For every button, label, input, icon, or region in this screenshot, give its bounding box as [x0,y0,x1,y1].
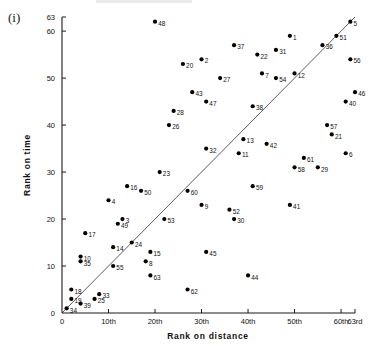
point-label: 11 [242,151,249,158]
point-label: 56 [354,57,362,64]
data-point: 1 [288,34,297,41]
point-marker [334,34,338,38]
data-point: 44 [246,273,259,280]
point-label: 29 [321,166,329,173]
data-point: 48 [153,20,166,27]
point-marker [69,287,73,291]
point-label: 27 [223,76,231,83]
y-tick-label: 0 [51,309,55,318]
data-point: 21 [330,132,343,139]
data-point: 15 [148,250,161,257]
data-point: 57 [325,123,338,130]
point-marker [167,123,171,127]
point-label: 50 [144,189,152,196]
point-marker [83,231,87,235]
point-label: 2 [205,57,209,64]
point-label: 44 [251,274,259,281]
point-marker [348,20,352,24]
y-tick-label: 60 [47,27,55,36]
data-point: 37 [232,43,245,50]
point-label: 45 [209,250,217,257]
data-point: 47 [204,99,217,106]
point-marker [125,184,129,188]
point-marker [232,217,236,221]
point-marker [144,259,148,263]
y-axis-title: Rank on time [22,134,32,196]
point-label: 23 [163,170,171,177]
data-point: 13 [241,137,254,144]
data-point: 41 [288,203,301,210]
plot-canvas: 010th20th30th40th50th60th63rd01020304050… [0,0,378,346]
point-marker [79,302,83,306]
point-marker [348,57,352,61]
point-label: 32 [209,147,217,154]
data-point: 16 [125,184,138,191]
y-tick-label: 40 [47,121,55,130]
point-marker [199,203,203,207]
point-label: 41 [293,203,301,210]
point-label: 54 [279,76,287,83]
point-marker [330,132,334,136]
point-label: 12 [298,72,306,79]
point-marker [79,255,83,259]
data-point: 38 [251,104,264,111]
point-marker [139,189,143,193]
x-tick-label: 40th [241,317,256,326]
x-tick-label: 10th [101,317,116,326]
data-point: 27 [218,76,231,83]
y-tick-label: 63 [47,13,55,22]
point-marker [227,208,231,212]
data-point: 24 [130,240,143,247]
point-marker [204,146,208,150]
data-point: 59 [251,184,264,191]
point-marker [344,99,348,103]
point-label: 57 [330,123,338,130]
point-label: 35 [84,260,92,267]
point-label: 61 [307,156,315,163]
point-label: 18 [75,288,83,295]
point-label: 15 [154,250,162,257]
point-marker [204,250,208,254]
data-point: 14 [111,245,124,252]
point-label: 1 [293,34,297,41]
point-label: 53 [168,217,176,224]
point-marker [106,198,110,202]
x-tick-label: 60th [334,317,349,326]
data-point: 51 [334,34,347,41]
point-label: 39 [84,302,92,309]
point-label: 37 [237,43,245,50]
point-label: 38 [256,104,264,111]
data-point: 23 [158,170,171,177]
data-point: 46 [353,90,366,97]
data-point: 36 [320,43,333,50]
x-tick-label: 0 [60,317,64,326]
point-marker [288,203,292,207]
data-point: 56 [348,57,361,64]
data-point: 6 [344,151,353,158]
point-marker [246,273,250,277]
data-point: 4 [106,198,115,205]
data-point: 22 [255,52,268,59]
point-label: 6 [349,151,353,158]
point-marker [181,62,185,66]
point-marker [111,264,115,268]
data-point: 63 [148,273,161,280]
data-point: 11 [237,151,249,158]
point-label: 51 [340,34,348,41]
point-marker [292,71,296,75]
point-marker [288,34,292,38]
point-label: 24 [135,241,143,248]
point-label: 21 [335,133,343,140]
point-label: 33 [102,292,110,299]
point-marker [153,20,157,24]
point-marker [241,137,245,141]
point-label: 14 [116,245,124,252]
point-marker [260,71,264,75]
point-marker [162,217,166,221]
point-label: 62 [191,288,199,295]
data-point: 8 [144,259,153,266]
point-marker [255,52,259,56]
point-marker [344,151,348,155]
data-point: 35 [79,259,92,266]
point-marker [172,109,176,113]
